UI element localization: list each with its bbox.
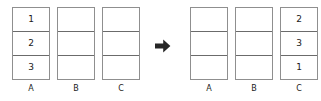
stack-cell — [58, 32, 94, 56]
stack-cell: 2 — [281, 8, 317, 32]
stack-cell — [191, 32, 227, 56]
stack-cell — [236, 56, 272, 79]
stack-cell — [103, 32, 139, 56]
stack-cell — [236, 8, 272, 32]
stack-before-a: 1 2 3 A — [12, 0, 50, 101]
stack-after-b: B — [235, 0, 273, 101]
stack-label: A — [12, 85, 50, 93]
stack-cell — [103, 8, 139, 32]
stack-after-a: A — [190, 0, 228, 101]
stack-label: C — [102, 85, 140, 93]
stack-cell: 3 — [281, 32, 317, 56]
stack-body — [190, 7, 228, 80]
stack-cell: 1 — [13, 8, 49, 32]
stack-before-c: C — [102, 0, 140, 101]
stack-after-c: 2 3 1 C — [280, 0, 318, 101]
stack-cell — [58, 56, 94, 79]
stack-body — [57, 7, 95, 80]
stack-cell — [236, 32, 272, 56]
stack-cell — [191, 8, 227, 32]
stack-cell: 3 — [13, 56, 49, 79]
stack-body: 2 3 1 — [280, 7, 318, 80]
stack-label: C — [280, 85, 318, 93]
stack-cell — [191, 56, 227, 79]
stack-label: B — [235, 85, 273, 93]
right-arrow-icon — [155, 38, 171, 52]
stack-group-before: 1 2 3 A B C — [12, 0, 147, 101]
stack-group-after: A B 2 3 1 C — [190, 0, 321, 101]
stack-cell: 1 — [281, 56, 317, 79]
stack-body — [235, 7, 273, 80]
stack-label: A — [190, 85, 228, 93]
stack-cell: 2 — [13, 32, 49, 56]
stack-before-b: B — [57, 0, 95, 101]
stack-diagram: 1 2 3 A B C — [0, 0, 321, 101]
stack-body — [102, 7, 140, 80]
stack-body: 1 2 3 — [12, 7, 50, 80]
stack-cell — [58, 8, 94, 32]
stack-cell — [103, 56, 139, 79]
stack-label: B — [57, 85, 95, 93]
